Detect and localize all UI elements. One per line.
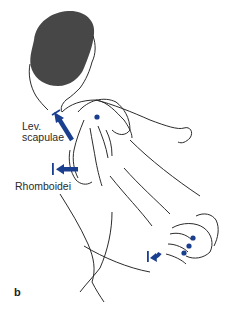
illustration-drawing xyxy=(0,0,240,312)
panel-letter: b xyxy=(14,286,21,298)
hand-contact-dot-3 xyxy=(181,250,186,255)
levator-label-line2: scapulae xyxy=(22,132,64,143)
hand-contact-dot-2 xyxy=(186,243,191,248)
anatomy-illustration: Lev. scapulae Rhomboidei b xyxy=(0,0,240,312)
hair xyxy=(30,11,94,86)
levator-scapulae-label: Lev. scapulae xyxy=(22,121,64,143)
hand-contact-dot-1 xyxy=(190,235,195,240)
hand-arrow xyxy=(147,251,160,262)
shoulder-contact-dot xyxy=(94,114,99,119)
contact-points xyxy=(94,114,195,255)
rhomboidei-label: Rhomboidei xyxy=(15,181,71,192)
